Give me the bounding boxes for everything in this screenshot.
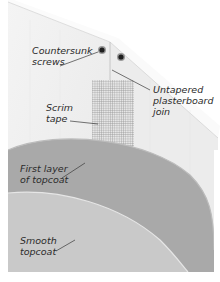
countersunk-screw-icon [117, 53, 125, 61]
label-scrim-tape: Scrim tape [46, 102, 73, 124]
label-line: of topcoat [20, 174, 68, 185]
label-line: First layer [20, 163, 68, 174]
label-line: plasterboard [153, 95, 214, 106]
label-line: join [153, 106, 214, 117]
label-line: Untapered [153, 84, 214, 95]
label-line: Countersunk [32, 45, 92, 56]
label-untapered-join: Untapered plasterboard join [153, 84, 214, 117]
label-smooth-topcoat: Smooth topcoat [20, 235, 57, 257]
label-line: Scrim [46, 102, 73, 113]
label-line: topcoat [20, 246, 57, 257]
label-countersunk-screws: Countersunk screws [32, 45, 92, 67]
label-line: tape [46, 113, 73, 124]
label-line: screws [32, 56, 92, 67]
plastering-diagram: Countersunk screws Untapered plasterboar… [0, 0, 220, 282]
label-line: Smooth [20, 235, 57, 246]
label-first-layer-topcoat: First layer of topcoat [20, 163, 68, 185]
countersunk-screw-icon [98, 46, 106, 54]
